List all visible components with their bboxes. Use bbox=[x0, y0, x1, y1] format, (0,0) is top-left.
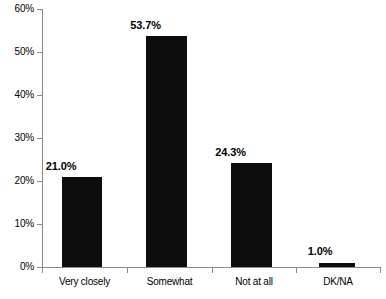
bar-not-at-all bbox=[231, 163, 272, 267]
x-axis-category-label-very-closely: Very closely bbox=[42, 276, 127, 287]
x-axis-category-label-somewhat: Somewhat bbox=[127, 276, 212, 287]
y-axis-tick-label-0: 0% bbox=[0, 262, 34, 272]
bar-value-label-very-closely: 21.0% bbox=[40, 161, 82, 172]
bar-value-label-dk-na: 1.0% bbox=[301, 246, 339, 257]
y-axis-tick-label-50: 50% bbox=[0, 47, 34, 57]
x-axis-tick-mark bbox=[212, 268, 213, 273]
y-axis-tick-label-10: 10% bbox=[0, 219, 34, 229]
bar-chart: 0% 10% 20% 30% 40% 50% 60% 21.0% 53.7% 2… bbox=[0, 0, 386, 299]
y-axis-tick-label-40: 40% bbox=[0, 90, 34, 100]
x-axis-tick-mark bbox=[127, 268, 128, 273]
x-axis-tick-mark bbox=[42, 268, 43, 273]
x-axis-tick-mark bbox=[380, 268, 381, 273]
bar-value-label-not-at-all: 24.3% bbox=[209, 147, 252, 158]
bar-value-label-somewhat: 53.7% bbox=[124, 20, 167, 31]
y-axis-tick-label-30: 30% bbox=[0, 133, 34, 143]
bar-very-closely bbox=[62, 177, 102, 267]
x-axis-category-label-not-at-all: Not at all bbox=[212, 276, 296, 287]
bar-somewhat bbox=[146, 36, 187, 267]
y-axis-tick-label-60: 60% bbox=[0, 4, 34, 14]
x-axis-category-label-dk-na: DK/NA bbox=[296, 276, 380, 287]
y-axis-tick-label-20: 20% bbox=[0, 176, 34, 186]
plot-area bbox=[42, 9, 381, 267]
x-axis-tick-mark bbox=[296, 268, 297, 273]
